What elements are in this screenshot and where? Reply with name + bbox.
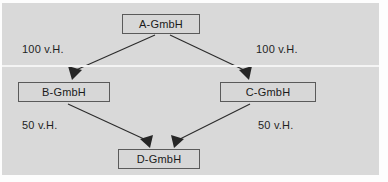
- edge-c-to-d: [171, 104, 250, 148]
- scan-margin-bottom: [0, 175, 388, 182]
- edge-label-b-to-d: 50 v.H.: [22, 119, 57, 132]
- entity-box-d-gmbh[interactable]: D-GmbH: [118, 149, 200, 169]
- scan-margin-left: [0, 0, 2, 182]
- diagram-canvas: A-GmbH B-GmbH C-GmbH D-GmbH 100 v.H. 100…: [0, 0, 388, 182]
- edge-b-to-d: [68, 104, 153, 148]
- edge-label-c-to-d: 50 v.H.: [258, 119, 293, 132]
- edge-label-a-to-c: 100 v.H.: [256, 43, 298, 56]
- edge-a-to-b: [68, 35, 155, 80]
- entity-box-c-gmbh[interactable]: C-GmbH: [220, 82, 316, 102]
- entity-box-b-gmbh[interactable]: B-GmbH: [18, 82, 110, 102]
- scan-margin-right: [379, 0, 388, 182]
- edge-label-a-to-b: 100 v.H.: [22, 43, 64, 56]
- scan-margin-top: [0, 0, 388, 3]
- entity-box-a-gmbh[interactable]: A-GmbH: [122, 14, 200, 34]
- edge-a-to-c: [170, 35, 252, 80]
- scan-artifact-line: [0, 65, 379, 67]
